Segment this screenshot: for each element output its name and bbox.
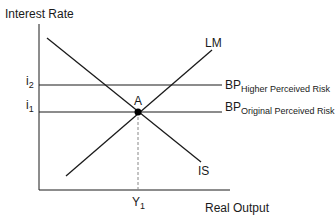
tick-i2: i2 [26,75,34,87]
bp-original-main: BP [225,100,241,114]
tick-i1-sub: 1 [29,104,34,114]
point-a-label: A [134,95,142,107]
x-axis-label: Real Output [205,202,269,214]
tick-i1: i1 [26,99,34,111]
is-curve [47,38,201,162]
lm-label: LM [205,37,222,49]
bp-higher-risk-label: BPHigher Perceived Risk [225,79,330,91]
y-axis-label: Interest Rate [5,8,74,20]
equilibrium-point-a [135,109,142,116]
bp-original-risk-label: BPOriginal Perceived Risk [225,101,335,113]
tick-y1-main: Y [132,195,140,209]
is-label: IS [198,165,209,177]
tick-y1-sub: 1 [140,201,145,211]
tick-i2-sub: 2 [29,80,34,90]
tick-y1: Y1 [132,196,145,208]
bp-higher-sub: Higher Perceived Risk [241,84,330,94]
bp-higher-main: BP [225,78,241,92]
bp-original-sub: Original Perceived Risk [241,106,335,116]
